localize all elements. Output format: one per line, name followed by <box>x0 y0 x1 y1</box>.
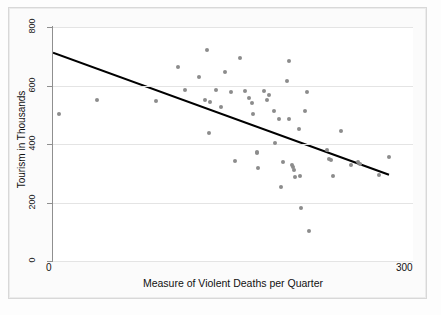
y-axis-tick-400 <box>47 144 53 145</box>
scatter-point <box>329 158 333 162</box>
scatter-point <box>292 168 296 172</box>
gridline-y-800 <box>53 27 413 28</box>
y-axis-tick-label-400: 400 <box>27 131 37 155</box>
scatter-point <box>265 98 269 102</box>
scatter-point <box>325 148 329 152</box>
scatter-point <box>205 48 209 52</box>
y-axis-tick-label-600: 600 <box>27 73 37 97</box>
y-axis-tick-600 <box>47 86 53 87</box>
scatter-point <box>223 70 227 74</box>
scatter-point <box>349 163 353 167</box>
scatter-point <box>279 185 283 189</box>
scatter-point <box>255 150 259 154</box>
scatter-point <box>207 131 211 135</box>
scatter-point <box>297 127 301 131</box>
scatter-point <box>243 89 247 93</box>
y-axis-title: Tourism in Thousands <box>16 80 27 200</box>
chart-root: Tourism in Thousands Measure of Violent … <box>0 0 441 315</box>
scatter-point <box>183 88 187 92</box>
x-axis-tick-max: 300 <box>396 262 413 273</box>
scatter-point <box>247 96 251 100</box>
gridline-y-200 <box>53 203 413 204</box>
scatter-point <box>233 159 237 163</box>
scatter-point <box>287 117 291 121</box>
scatter-point <box>154 99 158 103</box>
scatter-point <box>229 90 233 94</box>
scatter-point <box>331 174 335 178</box>
scatter-point <box>238 56 242 60</box>
scatter-point <box>262 89 266 93</box>
scatter-point <box>208 100 212 104</box>
gridline-y-400 <box>53 144 413 145</box>
scatter-point <box>307 229 311 233</box>
scatter-point <box>176 65 180 69</box>
scatter-point <box>299 206 303 210</box>
scatter-point <box>251 112 255 116</box>
x-axis-title: Measure of Violent Deaths per Quarter <box>53 277 413 289</box>
scatter-point <box>267 93 271 97</box>
y-axis-tick-label-0: 0 <box>27 248 37 272</box>
scatter-point <box>95 98 99 102</box>
scatter-point <box>277 117 281 121</box>
scatter-point <box>203 98 207 102</box>
scatter-point <box>298 174 302 178</box>
scatter-point <box>358 162 362 166</box>
scatter-point <box>250 101 254 105</box>
scatter-point <box>197 75 201 79</box>
scatter-point <box>219 105 223 109</box>
x-axis-tick-min: 0 <box>46 262 52 273</box>
scatter-point <box>272 109 276 113</box>
y-axis-tick-200 <box>47 203 53 204</box>
scatter-point <box>303 109 307 113</box>
scatter-point <box>305 90 309 94</box>
y-axis-tick-label-800: 800 <box>27 14 37 38</box>
plot-area <box>53 27 413 261</box>
y-axis-tick-0 <box>47 261 53 262</box>
scatter-point <box>387 155 391 159</box>
scatter-point <box>285 79 289 83</box>
scatter-point <box>377 173 381 177</box>
scatter-point <box>57 112 61 116</box>
scatter-point <box>214 88 218 92</box>
scatter-point <box>339 129 343 133</box>
gridline-y-600 <box>53 86 413 87</box>
scatter-point <box>256 166 260 170</box>
y-axis-tick-800 <box>47 27 53 28</box>
scatter-point <box>281 160 285 164</box>
scatter-point <box>287 59 291 63</box>
y-axis-tick-label-200: 200 <box>27 190 37 214</box>
gridline-y-0 <box>53 261 413 262</box>
scatter-point <box>293 175 297 179</box>
